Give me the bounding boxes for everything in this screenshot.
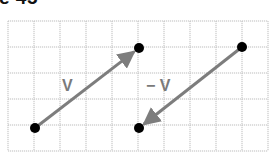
point-dot (237, 42, 247, 52)
vector-v-arrow (35, 52, 134, 128)
vector-neg-v-label: − V (146, 77, 171, 94)
vector-diagram: V − V (0, 0, 279, 158)
vector-v-label: V (62, 77, 73, 94)
point-dot (134, 123, 144, 133)
point-dot (134, 43, 144, 53)
point-dot (30, 123, 40, 133)
